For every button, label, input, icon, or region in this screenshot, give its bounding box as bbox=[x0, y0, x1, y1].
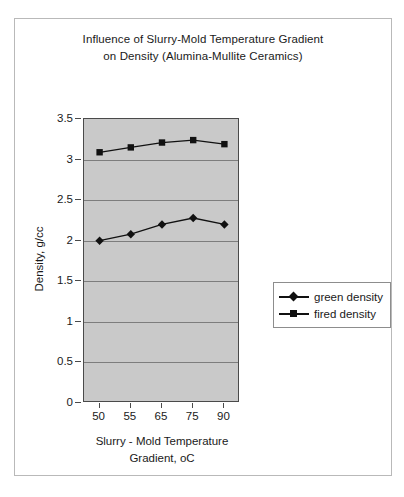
plot-area bbox=[83, 118, 239, 402]
data-point-diamond bbox=[220, 220, 228, 228]
chart-title: Influence of Slurry-Mold Temperature Gra… bbox=[15, 31, 391, 65]
x-axis-tick-label: 50 bbox=[92, 410, 105, 422]
y-axis-tick-label: 2 bbox=[67, 234, 73, 246]
figure-frame: Influence of Slurry-Mold Temperature Gra… bbox=[14, 18, 392, 476]
y-axis-tick-mark bbox=[75, 280, 81, 281]
y-axis-tick-mark bbox=[75, 118, 81, 119]
data-point-diamond bbox=[95, 237, 103, 245]
x-axis-title-line-2: Gradient, oC bbox=[39, 450, 285, 467]
chart-title-line-2: on Density (Alumina-Mullite Ceramics) bbox=[15, 48, 391, 65]
data-point-square bbox=[190, 137, 196, 143]
y-axis-tick-label: 1.5 bbox=[57, 274, 73, 286]
y-axis: Density, g/cc 00.511.522.533.5 bbox=[15, 118, 83, 402]
x-axis-tick-label: 55 bbox=[123, 410, 136, 422]
x-axis-title-line-1: Slurry - Mold Temperature bbox=[39, 433, 285, 450]
y-axis-tick-mark bbox=[75, 361, 81, 362]
data-point-diamond bbox=[189, 214, 197, 222]
y-axis-tick-mark bbox=[75, 402, 81, 403]
y-axis-title: Density, g/cc bbox=[33, 199, 45, 319]
x-axis-tick-mark bbox=[192, 403, 193, 408]
data-point-square bbox=[96, 149, 102, 155]
x-axis-tick-mark bbox=[223, 403, 224, 408]
data-point-square bbox=[128, 144, 134, 150]
x-axis-tick-label: 90 bbox=[217, 410, 230, 422]
data-point-diamond bbox=[158, 220, 166, 228]
x-axis-tick-label: 65 bbox=[155, 410, 168, 422]
y-axis-tick-mark bbox=[75, 159, 81, 160]
legend-item: green density bbox=[279, 288, 383, 305]
x-axis: 5055657590 bbox=[83, 403, 239, 425]
x-axis-tick-label: 75 bbox=[186, 410, 199, 422]
legend-item: fired density bbox=[279, 305, 383, 322]
y-axis-tick-label: 2.5 bbox=[57, 193, 73, 205]
data-point-diamond bbox=[127, 230, 135, 238]
x-axis-tick-mark bbox=[99, 403, 100, 408]
data-point-square bbox=[221, 141, 227, 147]
x-axis-tick-mark bbox=[161, 403, 162, 408]
x-axis-tick-mark bbox=[130, 403, 131, 408]
y-axis-tick-mark bbox=[75, 321, 81, 322]
y-axis-tick-label: 1 bbox=[67, 315, 73, 327]
y-axis-tick-mark bbox=[75, 199, 81, 200]
x-axis-title: Slurry - Mold Temperature Gradient, oC bbox=[39, 433, 285, 467]
y-axis-tick-label: 3.5 bbox=[57, 112, 73, 124]
y-axis-tick-mark bbox=[75, 240, 81, 241]
y-axis-tick-label: 0 bbox=[67, 396, 73, 408]
chart-title-line-1: Influence of Slurry-Mold Temperature Gra… bbox=[15, 31, 391, 48]
legend-marker-square-icon bbox=[279, 308, 309, 319]
chart-legend: green density fired density bbox=[273, 282, 391, 328]
series-layer bbox=[84, 119, 240, 403]
y-axis-tick-label: 0.5 bbox=[57, 355, 73, 367]
legend-item-label: green density bbox=[314, 291, 383, 303]
data-point-square bbox=[159, 139, 165, 145]
legend-marker-diamond-icon bbox=[279, 291, 309, 302]
y-axis-tick-label: 3 bbox=[67, 153, 73, 165]
legend-item-label: fired density bbox=[314, 308, 376, 320]
